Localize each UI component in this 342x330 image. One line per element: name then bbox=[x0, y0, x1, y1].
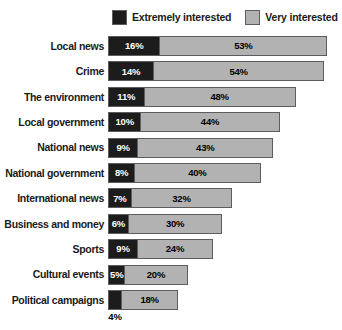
stacked-bar: 11%48% bbox=[108, 87, 296, 107]
chart-row: Cultural events5%20% bbox=[0, 265, 342, 285]
bar-value-label: 7% bbox=[113, 194, 126, 204]
bar-value-label: 10% bbox=[116, 117, 134, 127]
bar-value-label: 44% bbox=[201, 117, 219, 127]
bar-value-label: 8% bbox=[115, 168, 128, 178]
legend-swatch-extremely-interested bbox=[112, 10, 127, 25]
bar-segment-very-interested: 53% bbox=[159, 37, 326, 55]
category-label: The environment bbox=[0, 92, 108, 103]
bar-value-label: 30% bbox=[166, 219, 184, 229]
bar-value-label: 11% bbox=[117, 92, 135, 102]
chart-row: Political campaigns4%18% bbox=[0, 290, 342, 310]
category-label: Local government bbox=[0, 117, 108, 128]
bar-segment-very-interested: 48% bbox=[144, 88, 295, 106]
bar-segment-very-interested: 20% bbox=[124, 266, 186, 284]
bar-segment-extremely-interested: 11% bbox=[109, 88, 144, 106]
bar-segment-extremely-interested: 14% bbox=[109, 62, 153, 80]
bar-segment-extremely-interested: 7% bbox=[109, 189, 131, 207]
category-label: National government bbox=[0, 168, 108, 179]
stacked-bar: 16%53% bbox=[108, 36, 327, 56]
legend-item-extremely-interested: Extremely interested bbox=[112, 10, 231, 25]
bar-value-label: 53% bbox=[234, 41, 252, 51]
chart-row: National news9%43% bbox=[0, 138, 342, 158]
bar-segment-very-interested: 32% bbox=[131, 189, 231, 207]
bar-segment-extremely-interested: 10% bbox=[109, 113, 140, 131]
category-label: Business and money bbox=[0, 219, 108, 230]
bar-segment-extremely-interested: 16% bbox=[109, 37, 159, 55]
stacked-bar: 4%18% bbox=[108, 290, 178, 310]
bar-segment-extremely-interested: 5% bbox=[109, 266, 124, 284]
bar-segment-extremely-interested: 9% bbox=[109, 139, 137, 157]
category-label: Cultural events bbox=[0, 269, 108, 280]
chart-row: Business and money6%30% bbox=[0, 214, 342, 234]
category-label: Local news bbox=[0, 41, 108, 52]
category-label: International news bbox=[0, 193, 108, 204]
legend-label-extremely-interested: Extremely interested bbox=[132, 12, 231, 23]
category-label: Crime bbox=[0, 66, 108, 77]
bar-segment-very-interested: 43% bbox=[137, 139, 272, 157]
bar-value-label: 18% bbox=[140, 295, 158, 305]
bar-value-label: 48% bbox=[210, 92, 228, 102]
bar-value-label: 43% bbox=[196, 143, 214, 153]
chart-row: National government8%40% bbox=[0, 163, 342, 183]
stacked-bar: 9%24% bbox=[108, 239, 213, 259]
bar-value-label: 14% bbox=[122, 67, 140, 77]
bar-value-label: 20% bbox=[147, 270, 165, 280]
chart-row: Local news16%53% bbox=[0, 36, 342, 56]
stacked-bar: 10%44% bbox=[108, 112, 280, 132]
stacked-bar: 8%40% bbox=[108, 163, 261, 183]
bar-segment-extremely-interested: 9% bbox=[109, 240, 137, 258]
bar-value-label: 4% bbox=[108, 312, 122, 322]
bar-segment-very-interested: 30% bbox=[128, 215, 222, 233]
chart-row: The environment11%48% bbox=[0, 87, 342, 107]
bar-value-label: 16% bbox=[125, 41, 143, 51]
stacked-bar: 7%32% bbox=[108, 188, 232, 208]
bar-value-label: 32% bbox=[172, 194, 190, 204]
bar-segment-extremely-interested: 4% bbox=[109, 291, 121, 309]
chart-row: Crime14%54% bbox=[0, 61, 342, 81]
bar-value-label: 40% bbox=[188, 168, 206, 178]
chart-row: Sports9%24% bbox=[0, 239, 342, 259]
bar-value-label: 24% bbox=[166, 244, 184, 254]
chart-legend: Extremely interested Very interested bbox=[112, 6, 338, 28]
legend-swatch-very-interested bbox=[245, 10, 260, 25]
bar-value-label: 54% bbox=[229, 67, 247, 77]
bar-value-label: 6% bbox=[112, 219, 125, 229]
category-label: Sports bbox=[0, 244, 108, 255]
bar-value-label: 5% bbox=[110, 270, 123, 280]
bar-segment-extremely-interested: 6% bbox=[109, 215, 128, 233]
category-label: National news bbox=[0, 142, 108, 153]
bar-segment-very-interested: 44% bbox=[140, 113, 278, 131]
legend-label-very-interested: Very interested bbox=[265, 12, 337, 23]
bar-segment-very-interested: 54% bbox=[153, 62, 323, 80]
stacked-bar: 6%30% bbox=[108, 214, 222, 234]
bar-segment-very-interested: 18% bbox=[121, 291, 177, 309]
chart-row: International news7%32% bbox=[0, 188, 342, 208]
bar-segment-very-interested: 24% bbox=[137, 240, 212, 258]
bar-segment-very-interested: 40% bbox=[134, 164, 260, 182]
stacked-bar: 9%43% bbox=[108, 138, 273, 158]
stacked-bar: 14%54% bbox=[108, 61, 324, 81]
bar-segment-extremely-interested: 8% bbox=[109, 164, 134, 182]
stacked-bar: 5%20% bbox=[108, 265, 188, 285]
chart-row: Local government10%44% bbox=[0, 112, 342, 132]
legend-item-very-interested: Very interested bbox=[245, 10, 337, 25]
category-label: Political campaigns bbox=[0, 295, 108, 306]
stacked-bar-chart: Local news16%53%Crime14%54%The environme… bbox=[0, 33, 342, 301]
bar-value-label: 9% bbox=[116, 244, 129, 254]
bar-value-label: 9% bbox=[116, 143, 129, 153]
